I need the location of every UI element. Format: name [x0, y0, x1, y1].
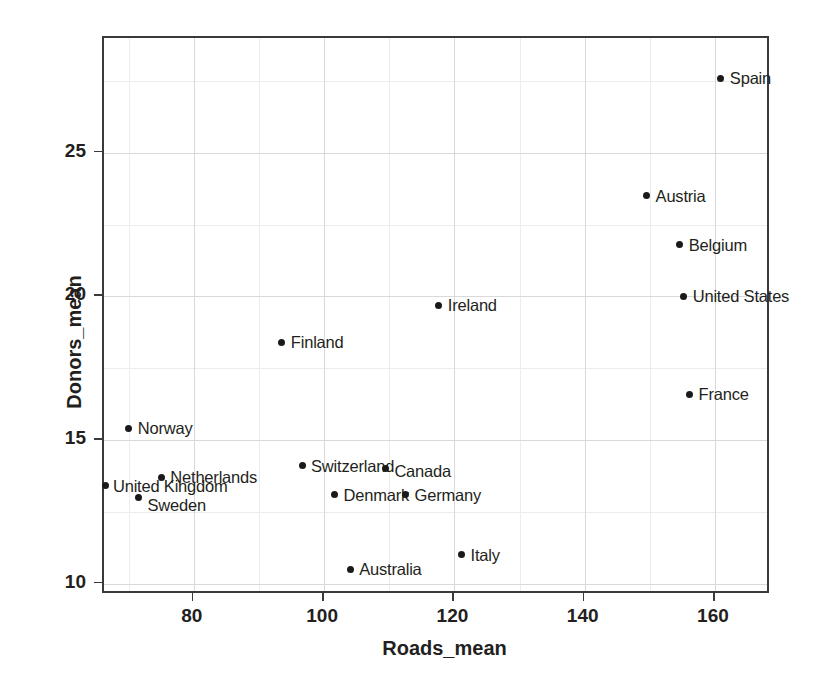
data-point[interactable] [680, 293, 687, 300]
data-point[interactable] [102, 482, 109, 489]
x-axis-title: Roads_mean [0, 637, 829, 660]
gridline-horizontal [104, 368, 767, 369]
gridline-horizontal [104, 153, 767, 154]
x-axis-tick-label: 140 [567, 605, 599, 627]
data-point-label: Canada [394, 462, 451, 479]
data-point[interactable] [347, 566, 354, 573]
x-axis-tick [583, 593, 585, 601]
data-point[interactable] [676, 241, 683, 248]
y-axis-tick-label: 10 [65, 571, 86, 593]
data-point[interactable] [717, 75, 724, 82]
gridline-vertical-minor [520, 38, 521, 591]
data-point-label: Germany [415, 486, 481, 503]
y-axis-tick-label: 15 [65, 427, 86, 449]
gridline-vertical [585, 38, 586, 591]
gridline-horizontal [104, 296, 767, 297]
x-axis-tick [452, 593, 454, 601]
scatter-plot-figure: SpainAustriaBelgiumUnited StatesIrelandF… [0, 0, 829, 683]
x-axis-tick [192, 593, 194, 601]
x-axis-tick [322, 593, 324, 601]
data-point-label: Sweden [148, 497, 206, 514]
gridline-vertical [715, 38, 716, 591]
data-point[interactable] [435, 302, 442, 309]
y-axis-tick [94, 151, 102, 153]
data-point[interactable] [643, 192, 650, 199]
x-axis-tick [713, 593, 715, 601]
data-point-label: United Kingdom [113, 478, 228, 495]
gridline-horizontal [104, 153, 767, 154]
data-point[interactable] [458, 551, 465, 558]
gridline-horizontal [104, 225, 767, 226]
gridline-horizontal [104, 296, 767, 297]
data-point[interactable] [278, 339, 285, 346]
gridline-vertical-minor [389, 38, 390, 591]
y-axis-tick [94, 582, 102, 584]
x-axis-tick-label: 80 [181, 605, 202, 627]
gridline-horizontal [104, 440, 767, 441]
gridline-horizontal [104, 81, 767, 82]
gridline-vertical-minor [259, 38, 260, 591]
gridline-vertical-minor [650, 38, 651, 591]
data-point-label: Belgium [689, 236, 747, 253]
gridline-horizontal [104, 440, 767, 441]
data-point-label: Finland [291, 334, 344, 351]
y-axis-title: Donors_mean [63, 275, 86, 408]
data-point-label: Norway [138, 420, 193, 437]
data-point-label: France [699, 386, 749, 403]
gridline-vertical [454, 38, 455, 591]
data-point[interactable] [125, 425, 132, 432]
data-point-label: Spain [730, 70, 771, 87]
data-point-label: Austria [656, 188, 706, 205]
data-point-label: Italy [471, 547, 500, 564]
y-axis-tick [94, 438, 102, 440]
data-point-label: Denmark [344, 486, 410, 503]
data-point[interactable] [135, 494, 142, 501]
x-axis-tick-label: 160 [697, 605, 729, 627]
gridline-vertical [324, 38, 325, 591]
data-point-label: United States [693, 288, 789, 305]
data-point-label: Australia [359, 561, 421, 578]
gridline-vertical-minor [129, 38, 130, 591]
data-point[interactable] [686, 391, 693, 398]
data-point-label: Ireland [448, 297, 497, 314]
x-axis-tick-label: 120 [437, 605, 469, 627]
data-point[interactable] [331, 491, 338, 498]
data-point[interactable] [382, 465, 389, 472]
x-axis-tick-label: 100 [306, 605, 338, 627]
plot-area: SpainAustriaBelgiumUnited StatesIrelandF… [102, 36, 769, 593]
gridline-horizontal [104, 584, 767, 585]
y-axis-tick-label: 25 [65, 140, 86, 162]
y-axis-tick [94, 294, 102, 296]
data-point[interactable] [299, 462, 306, 469]
gridline-horizontal [104, 584, 767, 585]
